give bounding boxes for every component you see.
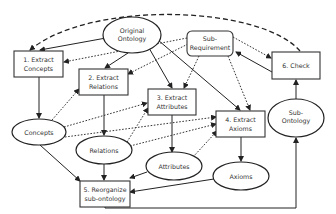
node-sub-requirement: Sub- Requirement [187, 31, 233, 56]
node-attributes: Attributes [146, 152, 202, 180]
edge-original-to-concepts-step [40, 38, 106, 50]
node-label: 6. Check [282, 62, 310, 69]
edge-original-to-attributes-step [149, 48, 172, 88]
node-label: Sub- [203, 35, 217, 42]
node-label: Ontology [118, 35, 147, 43]
node-label: Axioms [229, 173, 252, 180]
node-check: 6. Check [272, 52, 320, 79]
ontology-extraction-diagram: Original Ontology Sub- Requirement 1. Ex… [0, 0, 336, 214]
node-label: Original [120, 27, 145, 35]
node-label: Attributes [158, 163, 189, 170]
edge-subreq-to-attributes-step [184, 56, 199, 88]
node-original-ontology: Original Ontology [103, 17, 161, 53]
node-label: 5. Reorganize [83, 186, 126, 194]
edge-attributes-to-reorganize [130, 172, 147, 178]
node-relations: Relations [76, 136, 132, 164]
node-label: sub-ontology [84, 195, 125, 203]
edge-relations-to-attributes-step [127, 108, 148, 142]
edge-check-to-subreq [236, 52, 272, 72]
node-label: 2. Extract [88, 74, 119, 81]
node-label: 4. Extract [225, 116, 256, 123]
node-reorganize-sub-ontology: 5. Reorganize sub-ontology [80, 181, 130, 207]
edge-attributes-to-axioms-step [193, 131, 217, 157]
node-label: Attributes [156, 103, 187, 110]
edge-subreq-to-check [233, 37, 271, 58]
edge-concepts-to-reorganize [40, 145, 80, 181]
node-label: Axioms [229, 125, 252, 132]
node-label: 1. Extract [23, 56, 54, 63]
node-label: Sub- [289, 109, 303, 116]
node-label: Concepts [24, 129, 53, 137]
node-concepts: Concepts [12, 119, 66, 145]
node-label: Ontology [282, 117, 311, 125]
node-extract-concepts: 1. Extract Concepts [14, 51, 63, 77]
edge-axioms-to-reorganize [130, 179, 214, 192]
node-label: Relations [89, 83, 118, 90]
edge-original-to-relations-step [105, 53, 128, 68]
edge-relations-to-axioms-step [130, 124, 216, 146]
node-label: Relations [90, 147, 119, 154]
edge-concepts-to-relations-step [52, 89, 79, 120]
node-extract-attributes: 3. Extract Attributes [148, 89, 196, 115]
node-sub-ontology: Sub- Ontology [268, 99, 324, 137]
node-axioms: Axioms [213, 162, 269, 190]
node-label: 3. Extract [157, 94, 188, 101]
node-label: Requirement [190, 44, 231, 52]
node-extract-axioms: 4. Extract Axioms [216, 111, 265, 137]
node-label: Concepts [24, 65, 53, 73]
edge-concepts-to-attributes-step [64, 103, 147, 127]
edge-subreq-to-axioms-step [228, 56, 250, 110]
node-extract-relations: 2. Extract Relations [79, 69, 128, 95]
